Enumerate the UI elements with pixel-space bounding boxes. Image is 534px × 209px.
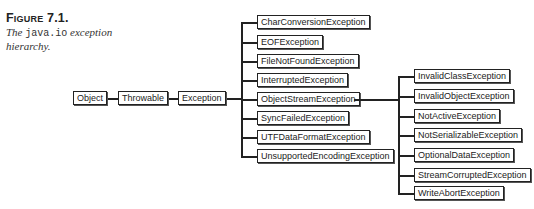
node-interruptedexception: InterruptedException [257,73,348,87]
branch-line [398,193,414,195]
node-invalidobjectexception: InvalidObjectException [414,89,514,103]
branch-line [398,135,414,137]
branch-line [398,116,414,118]
node-syncfailedexception: SyncFailedException [257,111,349,125]
branch-line [398,155,414,157]
node-charconversionexception: CharConversionException [257,15,370,29]
node-object: Object [73,91,107,105]
branch-line [398,76,414,78]
node-exception: Exception [178,91,226,105]
connector-exception-trunk [224,98,242,100]
node-streamcorruptedexception: StreamCorruptedException [414,168,531,182]
branch-line [241,42,257,44]
node-filenotfoundexception: FileNotFoundException [257,54,359,68]
branch-line [241,99,257,101]
node-throwable: Throwable [118,91,168,105]
node-utfdataformatexception: UTFDataFormatException [257,130,370,144]
exception-hierarchy-diagram: Object Throwable Exception CharConversio… [0,0,534,209]
branch-line [241,118,257,120]
branch-line [241,61,257,63]
node-unsupportedencodingexception: UnsupportedEncodingException [257,149,394,163]
node-notactiveexception: NotActiveException [414,109,500,123]
node-optionaldataexception: OptionalDataException [414,148,514,162]
node-objectstreamexception: ObjectStreamException [257,92,360,106]
node-notserializableexception: NotSerializableException [414,128,522,142]
branch-line [241,156,257,158]
node-invalidclassexception: InvalidClassException [414,69,510,83]
branch-line [398,96,414,98]
branch-line [241,80,257,82]
node-writeabortexception: WriteAbortException [414,186,504,200]
branch-line [398,175,414,177]
node-eofexception: EOFException [257,35,323,49]
branch-line [241,137,257,139]
branch-line [241,22,257,24]
connector-objectstream-trunk [354,99,398,101]
